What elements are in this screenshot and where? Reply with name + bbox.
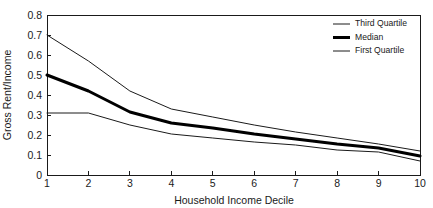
- x-tick-label: 5: [210, 177, 216, 189]
- x-tick-label: 3: [127, 177, 133, 189]
- y-tick-label: 0.8: [27, 9, 42, 21]
- y-tick-label: 0.1: [27, 149, 42, 161]
- series-line-first-quartile: [47, 113, 420, 161]
- x-tick-label: 8: [334, 177, 340, 189]
- legend-label-first-quartile: First Quartile: [355, 45, 404, 55]
- chart-figure: 00.10.20.30.40.50.60.70.8 12345678910 Th…: [0, 0, 433, 208]
- chart-legend: Third QuartileMedianFirst Quartile: [333, 18, 407, 55]
- y-tick-label: 0.7: [27, 29, 42, 41]
- x-axis-ticks: 12345678910: [44, 171, 426, 189]
- x-tick-label: 4: [168, 177, 174, 189]
- y-tick-label: 0.6: [27, 49, 42, 61]
- y-tick-label: 0: [36, 169, 42, 181]
- x-tick-label: 1: [44, 177, 50, 189]
- line-chart: 00.10.20.30.40.50.60.70.8 12345678910 Th…: [0, 0, 433, 208]
- series-line-median: [47, 75, 420, 156]
- y-tick-label: 0.3: [27, 109, 42, 121]
- x-tick-label: 10: [414, 177, 426, 189]
- x-tick-label: 9: [376, 177, 382, 189]
- x-tick-label: 6: [251, 177, 257, 189]
- y-tick-label: 0.2: [27, 129, 42, 141]
- y-tick-label: 0.4: [27, 89, 42, 101]
- legend-label-median: Median: [355, 32, 383, 42]
- legend-label-third-quartile: Third Quartile: [355, 18, 407, 28]
- x-axis-title: Household Income Decile: [174, 194, 294, 206]
- x-tick-label: 7: [293, 177, 299, 189]
- y-tick-label: 0.5: [27, 69, 42, 81]
- x-tick-label: 2: [86, 177, 92, 189]
- y-axis-title: Gross Rent/Income: [1, 50, 13, 141]
